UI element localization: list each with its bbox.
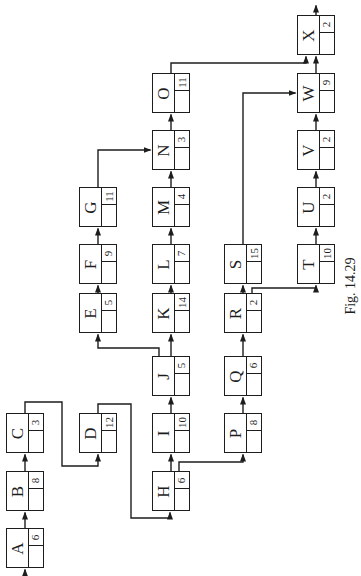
activity-letter: M bbox=[155, 199, 172, 214]
activity-letter: C bbox=[9, 427, 26, 438]
activity-node-D: D12 bbox=[79, 413, 117, 453]
activity-node-X: X2 bbox=[297, 15, 335, 55]
activity-letter: W bbox=[300, 85, 317, 101]
activity-node-A: A6 bbox=[6, 528, 44, 568]
activity-node-J: J5 bbox=[152, 356, 190, 396]
activity-letter-cell: T bbox=[298, 245, 320, 283]
figure-canvas: A6B8C3D12E5F9G11H6I10J5K14L7M4N3O11P8Q6R… bbox=[0, 0, 361, 576]
activity-letter: J bbox=[155, 373, 172, 380]
edge-G-N bbox=[98, 150, 151, 187]
activity-letter-cell: L bbox=[153, 245, 175, 283]
activity-duration-cell: 6 bbox=[29, 529, 43, 546]
activity-letter-cell: B bbox=[7, 472, 29, 510]
activity-duration: 8 bbox=[249, 419, 260, 425]
activity-letter: B bbox=[9, 485, 26, 496]
activity-duration: 9 bbox=[104, 250, 115, 256]
activity-duration-cell: 2 bbox=[320, 16, 334, 33]
activity-letter: S bbox=[227, 259, 244, 268]
activity-letter-cell: A bbox=[7, 529, 29, 567]
activity-letter: X bbox=[300, 29, 317, 41]
activity-duration: 8 bbox=[31, 477, 42, 483]
activity-node-E: E5 bbox=[79, 293, 117, 333]
activity-letter: D bbox=[82, 427, 99, 439]
activity-letter-cell: R bbox=[225, 294, 247, 332]
activity-node-B: B8 bbox=[6, 471, 44, 511]
activity-duration: 2 bbox=[322, 136, 333, 142]
activity-node-C: C3 bbox=[6, 413, 44, 453]
activity-node-I: I10 bbox=[152, 413, 190, 453]
activity-duration-cell: 6 bbox=[175, 472, 189, 489]
activity-node-M: M4 bbox=[152, 187, 190, 227]
activity-duration: 11 bbox=[177, 77, 188, 88]
activity-duration: 5 bbox=[104, 299, 115, 305]
activity-letter-cell: X bbox=[298, 16, 320, 54]
activity-duration: 11 bbox=[104, 191, 115, 202]
activity-node-L: L7 bbox=[152, 244, 190, 284]
activity-node-S: S15 bbox=[224, 244, 262, 284]
activity-node-F: F9 bbox=[79, 244, 117, 284]
activity-duration-cell: 10 bbox=[320, 245, 334, 262]
activity-letter-cell: D bbox=[80, 414, 102, 452]
activity-duration-cell: 15 bbox=[247, 245, 261, 262]
activity-letter-cell: Q bbox=[225, 357, 247, 395]
activity-duration: 10 bbox=[177, 417, 188, 428]
activity-duration: 6 bbox=[177, 477, 188, 483]
figure-caption: Fig. 14.29 bbox=[342, 234, 360, 338]
edge-R-T bbox=[252, 286, 316, 294]
activity-duration-cell: 10 bbox=[175, 414, 189, 431]
activity-duration: 5 bbox=[177, 362, 188, 368]
activity-letter: P bbox=[227, 428, 244, 437]
activity-duration: 15 bbox=[249, 248, 260, 259]
activity-duration: 9 bbox=[322, 79, 333, 85]
activity-letter: L bbox=[155, 259, 172, 269]
activity-duration-cell: 6 bbox=[247, 357, 261, 374]
activity-letter-cell: W bbox=[298, 74, 320, 112]
activity-letter: R bbox=[227, 307, 244, 318]
activity-letter: O bbox=[155, 87, 172, 99]
activity-letter: A bbox=[9, 542, 26, 554]
activity-letter-cell: C bbox=[7, 414, 29, 452]
activity-letter-cell: O bbox=[153, 74, 175, 112]
activity-duration-cell: 9 bbox=[102, 245, 116, 262]
activity-node-G: G11 bbox=[79, 187, 117, 227]
activity-letter-cell: N bbox=[153, 131, 175, 169]
activity-node-T: T10 bbox=[297, 244, 335, 284]
edge-H-P bbox=[179, 455, 243, 472]
activity-duration: 3 bbox=[31, 419, 42, 425]
activity-letter-cell: E bbox=[80, 294, 102, 332]
activity-node-P: P8 bbox=[224, 413, 262, 453]
activity-duration-cell: 4 bbox=[175, 188, 189, 205]
activity-letter: I bbox=[155, 430, 172, 436]
activity-letter: E bbox=[82, 308, 99, 318]
activity-duration: 12 bbox=[104, 417, 115, 428]
activity-duration-cell: 12 bbox=[102, 414, 116, 431]
activity-duration: 3 bbox=[177, 136, 188, 142]
activity-letter-cell: H bbox=[153, 472, 175, 510]
activity-duration: 2 bbox=[322, 193, 333, 199]
activity-letter-cell: G bbox=[80, 188, 102, 226]
activity-duration: 10 bbox=[322, 248, 333, 259]
activity-letter: G bbox=[82, 201, 99, 213]
activity-duration-cell: 14 bbox=[175, 294, 189, 311]
activity-duration: 7 bbox=[177, 250, 188, 256]
activity-duration: 6 bbox=[31, 534, 42, 540]
activity-letter: T bbox=[300, 259, 317, 269]
activity-duration: 14 bbox=[177, 297, 188, 308]
activity-letter-cell: I bbox=[153, 414, 175, 452]
activity-letter-cell: J bbox=[153, 357, 175, 395]
activity-letter: U bbox=[300, 201, 317, 213]
activity-duration-cell: 9 bbox=[320, 74, 334, 91]
activity-letter-cell: V bbox=[298, 131, 320, 169]
activity-duration-cell: 8 bbox=[247, 414, 261, 431]
activity-duration-cell: 2 bbox=[320, 131, 334, 148]
activity-letter-cell: S bbox=[225, 245, 247, 283]
activity-duration-cell: 5 bbox=[175, 357, 189, 374]
activity-node-W: W9 bbox=[297, 73, 335, 113]
edge-S-W bbox=[243, 93, 296, 244]
activity-letter: N bbox=[155, 144, 172, 156]
activity-duration-cell: 2 bbox=[247, 294, 261, 311]
activity-letter-cell: P bbox=[225, 414, 247, 452]
activity-letter: Q bbox=[227, 370, 244, 382]
activity-duration: 2 bbox=[249, 299, 260, 305]
edge-J-E bbox=[98, 335, 159, 357]
